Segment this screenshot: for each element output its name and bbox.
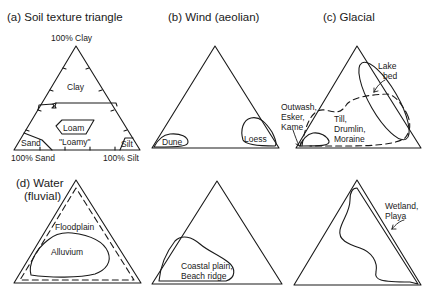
region-outwash: Outwash, bbox=[281, 102, 317, 112]
apex-label-clay: 100% Clay bbox=[51, 33, 92, 43]
region-sand: Sand bbox=[21, 138, 41, 148]
region-dune: Dune bbox=[162, 137, 182, 147]
panel-b-title: (b) Wind (aeolian) bbox=[168, 11, 259, 24]
panel-c-title: (c) Glacial bbox=[323, 11, 375, 24]
region-wetland: Wetland, bbox=[385, 201, 418, 211]
region-silt: Silt bbox=[121, 139, 133, 149]
region-loamy: "Loamy" bbox=[59, 137, 91, 147]
region-loam: Loam bbox=[63, 123, 84, 133]
panel-d-title-line2: (fluvial) bbox=[24, 190, 61, 203]
region-loess: Loess bbox=[244, 134, 267, 144]
region-esker: Esker, bbox=[281, 112, 305, 122]
region-coastal-plain: Coastal plain, bbox=[181, 261, 233, 271]
region-drumlin: Drumlin, bbox=[334, 124, 366, 134]
region-moraine: Moraine bbox=[334, 134, 365, 144]
region-bed: bed bbox=[383, 71, 397, 81]
triangle-b bbox=[152, 46, 279, 148]
region-lake: Lake bbox=[378, 61, 396, 71]
region-kame: Kame bbox=[281, 122, 303, 132]
region-till: Till, bbox=[334, 114, 347, 124]
triangle-a bbox=[14, 46, 140, 150]
corner-label-silt: 100% Silt bbox=[103, 153, 139, 163]
region-beach-ridge: Beach ridge bbox=[181, 271, 226, 281]
triangle-f bbox=[294, 180, 421, 285]
panel-d-title-line1: (d) Water bbox=[16, 177, 64, 190]
region-floodplain: Floodplain bbox=[55, 222, 94, 232]
corner-label-sand: 100% Sand bbox=[11, 153, 55, 163]
region-alluvium: Alluvium bbox=[51, 247, 83, 257]
panel-a-title: (a) Soil texture triangle bbox=[7, 11, 123, 24]
region-playa: Playa bbox=[385, 211, 406, 221]
region-clay: Clay bbox=[67, 82, 84, 92]
